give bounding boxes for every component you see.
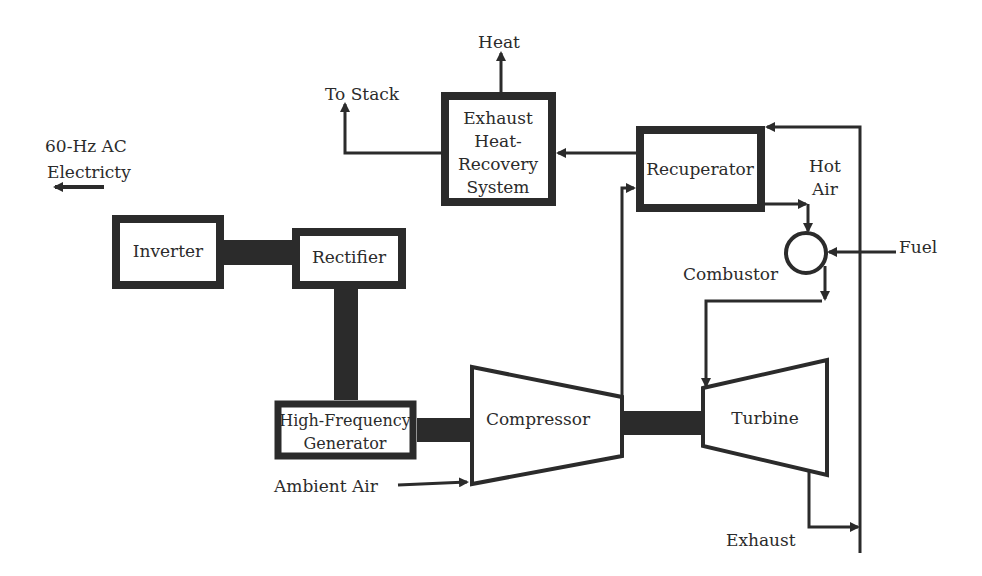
shaft-generator-compressor <box>417 418 473 442</box>
generator-label-1: High-Frequency <box>279 411 411 430</box>
combustor-label: Combustor <box>683 264 779 284</box>
generator-box: High-Frequency Generator <box>278 404 413 456</box>
recuperator-box: Recuperator <box>640 130 761 208</box>
exhaust-hrs-label-2: Heat- <box>474 131 522 151</box>
heat-label: Heat <box>478 32 520 52</box>
inverter-label: Inverter <box>133 241 204 261</box>
rectifier-label: Rectifier <box>312 247 387 267</box>
recuperator-label: Recuperator <box>646 159 755 179</box>
rectifier-box: Rectifier <box>296 232 402 285</box>
ac-output-label-2: Electricty <box>47 162 131 182</box>
hot-air-label-2: Air <box>811 179 839 199</box>
exhaust-hrs-label-1: Exhaust <box>463 108 533 128</box>
bus-inverter-rectifier <box>224 240 292 265</box>
exhaust-label: Exhaust <box>726 530 796 550</box>
ac-output-label-1: 60-Hz AC <box>45 136 127 156</box>
turbine: Turbine <box>703 360 827 475</box>
combustor-circle <box>786 233 826 273</box>
compressor: Compressor <box>472 367 622 484</box>
shaft-compressor-turbine <box>622 411 703 435</box>
compressor-label: Compressor <box>486 409 591 429</box>
exhaust-heat-recovery-box: Exhaust Heat- Recovery System <box>445 96 552 202</box>
turbine-exhaust-arrow <box>809 472 858 527</box>
compressor-to-recuperator-arrow <box>622 188 634 397</box>
bus-rectifier-generator <box>334 289 358 400</box>
hot-air-label-1: Hot <box>809 156 841 176</box>
ambient-air-label: Ambient Air <box>273 476 379 496</box>
to-stack-label: To Stack <box>325 84 400 104</box>
fuel-label: Fuel <box>899 237 937 257</box>
generator-label-2: Generator <box>304 434 387 453</box>
microturbine-diagram: Exhaust Heat- Recovery System Heat To St… <box>0 0 982 576</box>
exhaust-hrs-label-3: Recovery <box>458 154 538 174</box>
inverter-box: Inverter <box>116 219 220 285</box>
exhaust-hrs-label-4: System <box>467 177 530 197</box>
to-stack-arrow <box>345 104 441 153</box>
turbine-label: Turbine <box>731 408 799 428</box>
ambient-air-arrow <box>398 482 467 485</box>
